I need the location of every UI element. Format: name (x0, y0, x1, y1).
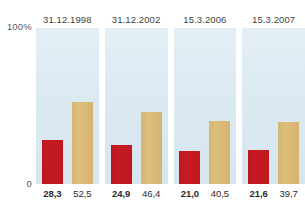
plot-area (174, 28, 237, 184)
bar-value-secondary: 52,5 (72, 188, 93, 199)
panel-header: 31.12.2002 (105, 14, 168, 25)
value-label-group: 21,0 40,5 (174, 188, 237, 199)
bar-secondary[interactable] (278, 122, 299, 184)
y-axis-min-label: 0 (27, 178, 32, 189)
panel-header: 15.3.2006 (174, 14, 237, 25)
panel-group: 31.12.1998 28,3 52,5 31.12.2002 (36, 0, 305, 210)
bar-chart: 100% 0 31.12.1998 28,3 52,5 31.12.2002 (0, 0, 305, 210)
bar-group (242, 28, 305, 184)
plot-area (105, 28, 168, 184)
bar-value-secondary: 46,4 (141, 188, 162, 199)
value-label-group: 24,9 46,4 (105, 188, 168, 199)
bar-group (105, 28, 168, 184)
bar-value-primary: 21,6 (248, 188, 269, 199)
bar-group (174, 28, 237, 184)
bar-primary[interactable] (248, 150, 269, 184)
plot-area (36, 28, 99, 184)
bar-secondary[interactable] (72, 102, 93, 184)
y-axis: 100% 0 (0, 0, 34, 210)
bar-value-secondary: 39,7 (278, 188, 299, 199)
chart-panel: 31.12.2002 24,9 46,4 (105, 0, 168, 210)
panel-header: 31.12.1998 (36, 14, 99, 25)
chart-panel: 31.12.1998 28,3 52,5 (36, 0, 99, 210)
chart-panel: 15.3.2007 21,6 39,7 (242, 0, 305, 210)
bar-primary[interactable] (42, 140, 63, 184)
bar-secondary[interactable] (209, 121, 230, 184)
bar-primary[interactable] (179, 151, 200, 184)
value-label-group: 21,6 39,7 (242, 188, 305, 199)
bar-value-primary: 21,0 (179, 188, 200, 199)
chart-panel: 15.3.2006 21,0 40,5 (174, 0, 237, 210)
bar-value-secondary: 40,5 (209, 188, 230, 199)
bar-value-primary: 24,9 (111, 188, 132, 199)
panel-header: 15.3.2007 (242, 14, 305, 25)
bar-group (36, 28, 99, 184)
bar-primary[interactable] (111, 145, 132, 184)
bar-value-primary: 28,3 (42, 188, 63, 199)
plot-area (242, 28, 305, 184)
value-label-group: 28,3 52,5 (36, 188, 99, 199)
y-axis-max-label: 100% (7, 21, 32, 32)
bar-secondary[interactable] (141, 112, 162, 184)
